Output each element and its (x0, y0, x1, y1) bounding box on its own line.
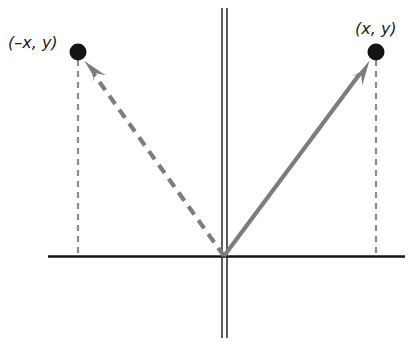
original-vector-shaft (224, 74, 360, 256)
reflected-vector-arrowhead (84, 61, 105, 82)
y-axis (222, 8, 227, 338)
right-point-label: (x, y) (355, 19, 397, 38)
left-point-label: (–x, y) (8, 33, 58, 52)
diagram-canvas (0, 0, 416, 345)
reflected-vector (84, 61, 224, 256)
left-point-marker (70, 44, 87, 61)
coordinate-plane-figure: (–x, y) (x, y) (0, 0, 416, 345)
original-vector (224, 61, 369, 256)
reflected-vector-shaft (94, 74, 224, 256)
right-point-marker (368, 44, 385, 61)
